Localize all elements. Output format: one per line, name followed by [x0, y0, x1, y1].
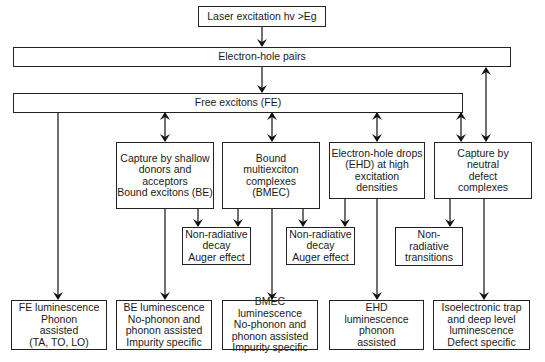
be-luminescence-box: BE luminescence No-phonon and phonon ass…: [116, 300, 212, 350]
bound-multiexciton-box: Bound multiexciton complexes (BMEC): [222, 142, 320, 209]
electron-hole-pairs-box: Electron-hole pairs: [13, 47, 511, 67]
free-excitons-box: Free excitons (FE): [13, 93, 463, 113]
bmec-luminescence-box: BMEC luminescence No-phonon and phonon a…: [222, 300, 318, 350]
fe-luminescence-box: FE luminescence Phonon assisted (TA, TO,…: [11, 300, 107, 350]
capture-shallow-donors-box: Capture by shallow donors and acceptors …: [116, 142, 214, 209]
nonradiative-transitions-box: Non- radiative transitions: [395, 227, 463, 266]
nonradiative-decay-box-2: Non-radiative decay Auger effect: [286, 227, 355, 265]
electron-hole-drops-box: Electron-hole drops (EHD) at high excita…: [329, 142, 425, 199]
capture-neutral-defect-box: Capture by neutral defect complexes: [434, 142, 532, 199]
laser-excitation-box: Laser excitation hv >Eg: [198, 6, 326, 27]
nonradiative-decay-box-1: Non-radiative decay Auger effect: [182, 227, 251, 265]
ehd-luminescence-box: EHD luminescence phonon assisted: [329, 300, 424, 350]
isoelectronic-trap-luminescence-box: Isoelectronic trap and deep level lumine…: [433, 300, 530, 350]
